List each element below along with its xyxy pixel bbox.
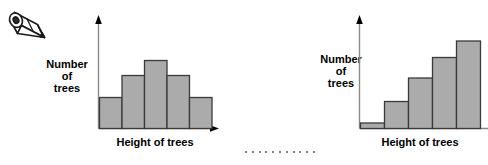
bar-1 xyxy=(100,98,123,129)
bar-3 xyxy=(409,78,433,129)
chart-left: Number of trees Height of trees xyxy=(0,0,244,165)
bar-1 xyxy=(361,123,385,129)
figure-canvas: Number of trees Height of trees Number xyxy=(0,0,488,165)
separator-dot xyxy=(265,151,267,153)
separator-dot xyxy=(272,151,274,153)
bar-5 xyxy=(190,98,213,129)
separator-dot xyxy=(259,151,261,153)
separator-dot xyxy=(252,151,254,153)
y-axis-arrowhead xyxy=(95,15,102,24)
chart-right: Number of trees Height of trees xyxy=(244,0,488,165)
separator-dot xyxy=(245,151,247,153)
bar-3 xyxy=(145,61,168,129)
bar-4 xyxy=(433,58,457,129)
x-axis-label-right: Height of trees xyxy=(360,136,480,148)
bar-2 xyxy=(385,102,409,129)
bar-4 xyxy=(167,76,190,129)
separator-dot xyxy=(306,151,308,153)
separator-dot xyxy=(279,151,281,153)
x-axis-label-left: Height of trees xyxy=(95,136,215,148)
bar-2 xyxy=(122,76,145,129)
bar-5 xyxy=(457,41,481,129)
bar-series-right xyxy=(361,41,481,129)
y-axis-arrowhead xyxy=(356,15,363,24)
bar-series-left xyxy=(100,61,213,129)
separator-dot xyxy=(293,151,295,153)
dotted-separator xyxy=(245,148,315,156)
separator-dot xyxy=(313,151,315,153)
separator-dot xyxy=(286,151,288,153)
separator-dot xyxy=(299,151,301,153)
